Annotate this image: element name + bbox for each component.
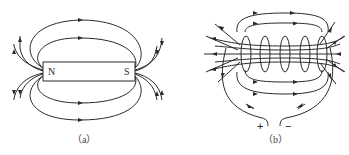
- arrow-icon: [78, 18, 83, 22]
- figure-b-solenoid: + − （b）: [204, 11, 345, 145]
- south-pole-label: S: [124, 66, 130, 77]
- north-pole-label: N: [48, 66, 55, 77]
- magnetic-field-diagram: N S （a）: [0, 0, 349, 155]
- positive-terminal-label: +: [257, 120, 263, 132]
- field-line: [30, 20, 141, 68]
- figure-b-caption: （b）: [263, 134, 288, 145]
- figure-a-bar-magnet: N S （a）: [12, 18, 164, 145]
- negative-terminal-label: −: [285, 120, 291, 132]
- figure-a-caption: （a）: [72, 134, 96, 145]
- bar-magnet: [43, 62, 135, 81]
